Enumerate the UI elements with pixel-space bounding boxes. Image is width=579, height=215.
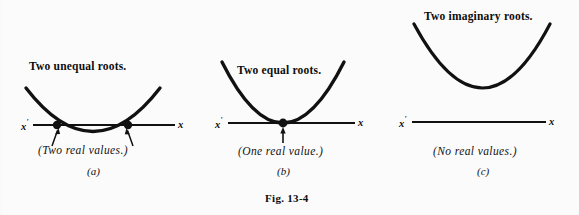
panel-b-letter: (b) bbox=[277, 165, 290, 177]
panel-c-value-caption: (No real values.) bbox=[433, 145, 517, 157]
panel-b-value-caption: (One real value.) bbox=[238, 145, 323, 157]
figure-13-4: Two unequal roots. x' x (Two real values… bbox=[0, 0, 579, 215]
panel-a-heading: Two unequal roots. bbox=[29, 60, 126, 72]
panel-b-axis-left-prime: ' bbox=[220, 116, 222, 125]
panel-a-axis-left-prime: ' bbox=[26, 118, 28, 127]
panel-c-parabola bbox=[414, 24, 550, 88]
panel-b-heading: Two equal roots. bbox=[237, 64, 321, 76]
panel-a-letter: (a) bbox=[87, 165, 100, 177]
panel-c-letter: (c) bbox=[477, 165, 489, 177]
panel-c-axis-label-right: x bbox=[549, 116, 554, 127]
figure-caption: Fig. 13-4 bbox=[265, 192, 309, 204]
panel-b-axis-label-right: x bbox=[358, 117, 363, 128]
panel-a-axis-label-left: x' bbox=[21, 118, 28, 132]
panel-a-root-marker-left bbox=[53, 121, 61, 129]
panel-c-axis-left-prime: ' bbox=[404, 115, 406, 124]
panel-c-axis-label-left: x' bbox=[399, 115, 406, 129]
panel-a-graphic bbox=[26, 88, 175, 146]
panel-b-arrow-up bbox=[280, 127, 285, 143]
panel-a-axis-label-right: x bbox=[178, 119, 183, 130]
panel-a-root-marker-right bbox=[124, 121, 132, 129]
panel-c-graphic bbox=[412, 24, 550, 122]
figure-drawing-canvas bbox=[0, 0, 579, 215]
panel-c-heading: Two imaginary roots. bbox=[424, 10, 533, 22]
panel-b-root-marker bbox=[279, 119, 288, 128]
panel-a-value-caption: (Two real values.) bbox=[38, 144, 128, 156]
panel-b-axis-label-left: x' bbox=[215, 116, 222, 130]
